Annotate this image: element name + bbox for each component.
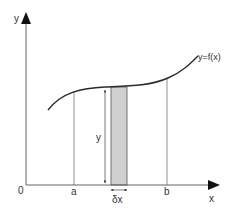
x-axis-arrow-icon bbox=[208, 180, 220, 190]
x-axis-label: x bbox=[209, 193, 214, 204]
strip bbox=[111, 87, 127, 185]
b-label: b bbox=[164, 186, 170, 197]
area-under-curve-diagram: y x 0 a b y=f(x) y δx bbox=[0, 0, 233, 216]
origin-label: 0 bbox=[18, 185, 24, 196]
a-label: a bbox=[71, 186, 77, 197]
y-axis-arrow-icon bbox=[21, 12, 31, 24]
strip-width-label: δx bbox=[112, 194, 123, 205]
curve-label: y=f(x) bbox=[198, 52, 221, 62]
strip-height-label: y bbox=[96, 132, 101, 143]
y-axis-label: y bbox=[14, 13, 19, 24]
